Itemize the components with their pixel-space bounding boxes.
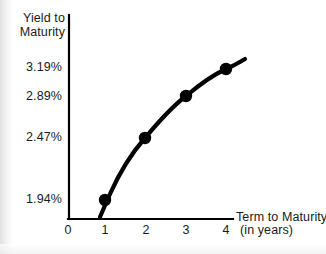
y-tick-label-1-94: 1.94% [6, 193, 62, 206]
x-tick-label-1: 1 [97, 224, 113, 237]
y-axis-title-line1: Yield to [6, 12, 65, 25]
y-tick-label-2-47: 2.47% [6, 131, 62, 144]
x-tick-label-4: 4 [218, 224, 234, 237]
y-axis-title-line2: Maturity [6, 26, 65, 39]
x-tick-label-0: 0 [60, 224, 76, 237]
x-tick-label-2: 2 [138, 224, 154, 237]
data-point-marker [99, 194, 111, 206]
x-tick-label-3: 3 [178, 224, 194, 237]
x-axis-title-units: (in years) [240, 224, 293, 237]
chart-figure: Yield to Maturity 3.19% 2.89% 2.47% 1.94… [0, 0, 326, 254]
yield-curve-line [100, 59, 245, 217]
y-tick-label-2-89: 2.89% [6, 90, 62, 103]
data-point-marker [139, 132, 151, 144]
data-point-marker [220, 63, 232, 75]
y-tick-label-3-19: 3.19% [6, 61, 62, 74]
data-point-marker [180, 90, 192, 102]
